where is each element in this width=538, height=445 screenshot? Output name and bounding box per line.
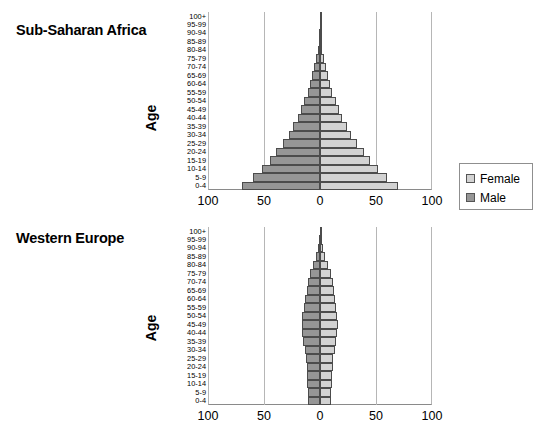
bar-male — [270, 156, 320, 164]
bar-female — [320, 20, 322, 28]
bar-female — [320, 235, 322, 243]
bar-row — [208, 37, 432, 45]
y-tick-label: 15-19 — [187, 157, 206, 164]
legend-item-male: Male — [466, 188, 532, 207]
y-tick-label: 100+ — [189, 13, 206, 20]
legend-swatch-male-icon — [466, 193, 475, 202]
bar-female — [320, 278, 333, 286]
bar-female — [320, 156, 370, 164]
bar-female — [320, 37, 322, 45]
x-tick-label: 50 — [257, 194, 271, 208]
bar-female — [320, 303, 336, 311]
y-axis-label-africa: Age — [143, 98, 159, 138]
bar-row — [208, 278, 432, 286]
bar-female — [320, 295, 335, 303]
bar-female — [320, 252, 325, 260]
y-tick-label: 25-29 — [187, 140, 206, 147]
bar-row — [208, 269, 432, 277]
y-tick-label: 30-34 — [187, 131, 206, 138]
y-tick-label: 90-94 — [187, 244, 206, 251]
bar-male — [313, 261, 320, 269]
bar-male — [307, 286, 320, 294]
y-tick-label: 25-29 — [187, 355, 206, 362]
bar-female — [320, 71, 328, 79]
bar-female — [320, 312, 337, 320]
bar-row — [208, 97, 432, 105]
bar-female — [320, 148, 364, 156]
bar-row — [208, 371, 432, 379]
y-tick-label: 50-54 — [187, 312, 206, 319]
y-axis-ticks-africa: 100+95-9990-9485-8980-8475-7970-7465-696… — [160, 12, 206, 190]
legend-swatch-female-icon — [466, 174, 475, 183]
bar-row — [208, 380, 432, 388]
bar-female — [320, 63, 326, 71]
bar-male — [301, 105, 320, 113]
bar-female — [320, 173, 387, 181]
y-tick-label: 50-54 — [187, 97, 206, 104]
x-tick-label: 100 — [422, 409, 443, 423]
bar-row — [208, 303, 432, 311]
legend-label-female: Female — [480, 172, 520, 186]
y-tick-label: 35-39 — [187, 338, 206, 345]
bar-row — [208, 252, 432, 260]
y-tick-label: 100+ — [189, 228, 206, 235]
y-tick-label: 30-34 — [187, 346, 206, 353]
y-tick-label: 95-99 — [187, 21, 206, 28]
y-tick-label: 85-89 — [187, 253, 206, 260]
y-tick-label: 5-9 — [195, 389, 206, 396]
y-tick-label: 65-69 — [187, 287, 206, 294]
bar-female — [320, 122, 347, 130]
bar-male — [302, 329, 320, 337]
bar-row — [208, 346, 432, 354]
chart-title-europe: Western Europe — [16, 230, 124, 246]
bar-row — [208, 235, 432, 243]
bar-row — [208, 54, 432, 62]
bar-male — [303, 337, 320, 345]
x-tick-label: 100 — [198, 409, 219, 423]
bar-row — [208, 139, 432, 147]
bar-male — [262, 165, 320, 173]
bar-male — [304, 303, 320, 311]
y-tick-label: 5-9 — [195, 174, 206, 181]
bar-female — [320, 261, 328, 269]
bar-female — [320, 88, 332, 96]
bar-row — [208, 363, 432, 371]
bar-row — [208, 156, 432, 164]
bar-row — [208, 397, 432, 405]
legend-label-male: Male — [480, 191, 506, 205]
bar-row — [208, 88, 432, 96]
y-tick-label: 80-84 — [187, 261, 206, 268]
y-tick-label: 75-79 — [187, 270, 206, 277]
y-axis-ticks-europe: 100+95-9990-9485-8980-8475-7970-7465-696… — [160, 227, 206, 405]
bar-female — [320, 244, 323, 252]
bar-rows-africa — [208, 12, 432, 190]
x-axis-ticks-africa: 10050050100 — [0, 194, 538, 214]
x-tick-label: 50 — [369, 409, 383, 423]
bar-row — [208, 329, 432, 337]
y-tick-label: 20-24 — [187, 363, 206, 370]
y-tick-label: 40-44 — [187, 114, 206, 121]
bar-row — [208, 312, 432, 320]
chart-panel-europe: Western Europe Age 100+95-9990-9485-8980… — [0, 215, 538, 445]
bar-row — [208, 244, 432, 252]
bar-male — [304, 97, 320, 105]
bar-male — [305, 346, 320, 354]
y-tick-label: 35-39 — [187, 123, 206, 130]
y-tick-label: 10-14 — [187, 165, 206, 172]
y-tick-label: 70-74 — [187, 278, 206, 285]
y-tick-label: 80-84 — [187, 46, 206, 53]
y-tick-label: 45-49 — [187, 106, 206, 113]
bar-female — [320, 346, 335, 354]
y-tick-label: 70-74 — [187, 63, 206, 70]
bar-female — [320, 380, 332, 388]
bar-row — [208, 63, 432, 71]
bar-female — [320, 46, 322, 54]
bar-female — [320, 114, 342, 122]
bar-female — [320, 29, 322, 37]
y-tick-label: 95-99 — [187, 236, 206, 243]
bar-male — [312, 71, 320, 79]
bar-male — [242, 182, 320, 190]
y-tick-label: 60-64 — [187, 80, 206, 87]
bar-male — [308, 278, 320, 286]
y-tick-label: 20-24 — [187, 148, 206, 155]
